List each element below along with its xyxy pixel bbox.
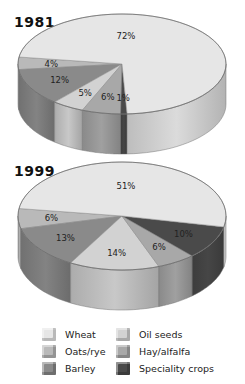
svg-text:72%: 72% (117, 31, 136, 41)
oats-rye-swatch-icon (42, 345, 56, 358)
legend-item-hay-alfalfa: Hay/alfalfa (116, 343, 216, 360)
svg-text:14%: 14% (107, 248, 126, 258)
wheat-swatch-icon (42, 328, 56, 341)
speciality-crops-swatch-icon (116, 362, 130, 375)
svg-text:1%: 1% (116, 93, 130, 103)
hay-alfalfa-swatch-icon (116, 345, 130, 358)
legend-item-oil-seeds: Oil seeds (116, 326, 216, 343)
svg-text:13%: 13% (56, 233, 75, 243)
legend-column-2: Oil seeds Hay/alfalfa Speciality crops (116, 326, 216, 377)
svg-text:12%: 12% (50, 75, 69, 85)
svg-text:10%: 10% (174, 229, 193, 239)
barley-swatch-icon (42, 362, 56, 375)
svg-text:5%: 5% (78, 88, 92, 98)
svg-text:6%: 6% (152, 242, 166, 252)
oil-seeds-swatch-icon (116, 328, 130, 341)
svg-text:6%: 6% (101, 92, 115, 102)
svg-text:51%: 51% (117, 181, 136, 191)
svg-text:4%: 4% (45, 59, 59, 69)
legend-item-speciality-crops: Speciality crops (116, 360, 216, 377)
svg-text:6%: 6% (45, 213, 59, 223)
